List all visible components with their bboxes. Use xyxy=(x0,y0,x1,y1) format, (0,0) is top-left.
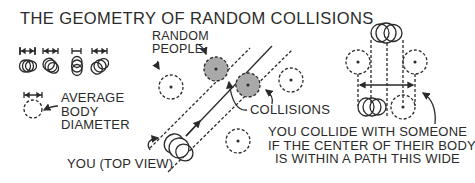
diagram-title: THE GEOMETRY OF RANDOM COLLISIONS xyxy=(20,10,374,27)
body-top-view-icon xyxy=(72,57,83,76)
width-marker-icon xyxy=(20,48,35,54)
width-marker-icon xyxy=(43,48,58,54)
path-width-diagram xyxy=(346,23,435,124)
width-marker-icon xyxy=(72,48,81,54)
arrow-icon xyxy=(157,61,159,69)
body-top-view-icon xyxy=(371,23,402,43)
arrow-icon xyxy=(44,106,58,110)
explanation-label: YOU COLLIDE WITH SOMEONE IF THE CENTER O… xyxy=(268,125,460,166)
average-body-legend xyxy=(24,92,58,118)
body-top-view-icon xyxy=(41,56,62,76)
width-marker-icon xyxy=(92,48,107,54)
random-people-label: RANDOM PEOPLE xyxy=(152,30,209,56)
body-width-examples xyxy=(20,48,112,76)
collisions-label: COLLISIONS xyxy=(250,103,330,117)
you-top-view-label: YOU (TOP VIEW) xyxy=(67,157,173,171)
body-top-view-icon xyxy=(89,56,111,77)
body-top-view-icon xyxy=(20,60,37,72)
arrow-icon xyxy=(423,93,435,124)
average-body-diameter-label: AVERAGE BODY DIAMETER xyxy=(61,91,130,132)
dashed-circle-icon xyxy=(24,100,42,118)
body-top-view-icon xyxy=(358,98,386,116)
